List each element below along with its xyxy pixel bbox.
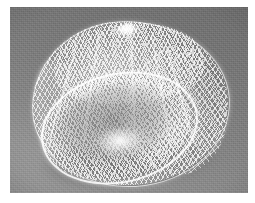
page-margin-left: [0, 0, 10, 203]
bottom-burst: [74, 110, 165, 173]
net-bag: [28, 17, 233, 189]
top-knot-rays: [69, 31, 187, 93]
page-margin-top: [0, 0, 255, 7]
page-margin-bottom: [0, 193, 255, 203]
page-margin-right: [248, 0, 255, 203]
photograph-plate: [10, 7, 248, 193]
page-canvas: [0, 0, 255, 203]
